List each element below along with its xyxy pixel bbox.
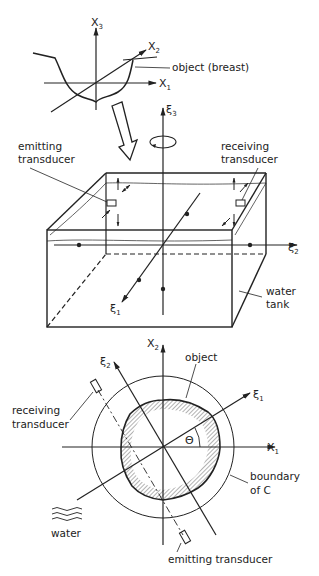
object-breast-label: object (breast): [172, 61, 249, 73]
water-tank-label-2: tank: [266, 298, 290, 310]
x3-label: X3: [91, 16, 103, 31]
cs-x2-label: X2: [147, 337, 159, 352]
emitting-leader-line: [30, 168, 107, 202]
cs-receiving-label-2: transducer: [12, 418, 70, 430]
cs-receiving-label-1: receiving: [12, 404, 60, 416]
x1-label: X1: [159, 77, 171, 92]
cs-receiving-transducer-icon: [90, 379, 101, 392]
water-label: water: [51, 527, 82, 539]
tank-receiving-label-1: receiving: [221, 140, 269, 152]
cs-xi1-label: ξ1: [253, 388, 264, 403]
transition-arrow-icon: [112, 102, 137, 160]
theta-label: Θ: [185, 434, 194, 447]
breast-outline-shape: [33, 53, 133, 102]
cs-emitting-label: emitting transducer: [168, 553, 273, 565]
cs-x1-label: X1: [267, 441, 279, 456]
cs-object-label: object: [185, 351, 217, 363]
cs-object-leader-line: [186, 364, 196, 398]
tank-emitting-label-2: transducer: [18, 153, 76, 165]
x2-label: X2: [148, 40, 160, 55]
cs-emitting-leader-line: [177, 543, 181, 552]
cross-section-view: X1 X2 ξ1 ξ2 Θ object receiving transduce…: [12, 337, 300, 565]
xi1-axis: [122, 193, 200, 302]
cs-xi2-label: ξ2: [100, 355, 111, 370]
tank-leader-line: [239, 291, 262, 297]
top-breast-sketch: object (breast) X3 X2 X1: [33, 16, 249, 112]
xi1-label: ξ1: [110, 302, 121, 317]
water-tank-label-1: water: [266, 285, 297, 297]
boundary-leader-line: [230, 475, 248, 483]
object-leader-line: [135, 67, 170, 68]
receiving-transducer-icon: [236, 200, 245, 206]
cs-receiving-leader-line: [70, 392, 93, 420]
water-waves-icon: [52, 508, 82, 521]
boundary-label-1: boundary: [250, 470, 300, 482]
xi3-label: ξ3: [166, 103, 177, 118]
plane-line: [123, 57, 157, 60]
emitting-transducer-icon: [107, 200, 116, 206]
xi2-label: ξ2: [288, 241, 299, 256]
tank-receiving-label-2: transducer: [221, 153, 279, 165]
tank-emitting-label-1: emitting: [18, 140, 62, 152]
ultrasound-tomography-diagram: object (breast) X3 X2 X1 ξ3: [0, 0, 319, 576]
water-tank-view: ξ3 ξ2 ξ1 emitting: [18, 103, 299, 327]
cs-emitting-transducer-icon: [179, 530, 190, 543]
boundary-label-2: of C: [250, 484, 271, 496]
